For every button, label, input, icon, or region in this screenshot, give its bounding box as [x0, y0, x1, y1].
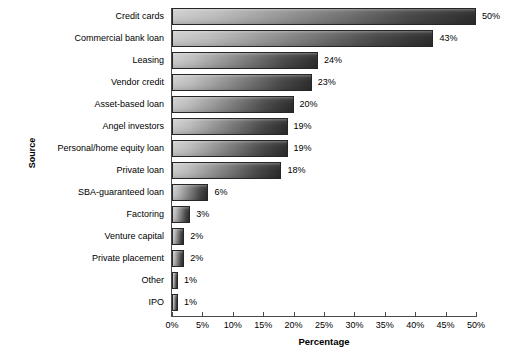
category-label: SBA-guaranteed loan: [0, 184, 164, 201]
bar-value-label: 50%: [482, 8, 500, 25]
bar-row: Credit cards50%: [172, 8, 476, 30]
bar-row: Venture capital2%: [172, 228, 476, 250]
x-axis-tick: [263, 312, 264, 317]
bar-row: Commercial bank loan43%: [172, 30, 476, 52]
bar: [172, 74, 312, 91]
category-label: IPO: [0, 294, 164, 311]
bar-value-label: 1%: [184, 272, 197, 289]
bar: [172, 140, 288, 157]
x-axis-tick: [324, 312, 325, 317]
bar-row: Other1%: [172, 272, 476, 294]
category-label: Other: [0, 272, 164, 289]
x-axis-tick-label: 50%: [456, 320, 496, 330]
category-label: Angel investors: [0, 118, 164, 135]
bar: [172, 272, 178, 289]
category-label: Venture capital: [0, 228, 164, 245]
bar-value-label: 2%: [190, 228, 203, 245]
bar: [172, 30, 433, 47]
bar: [172, 8, 476, 25]
bar-value-label: 2%: [190, 250, 203, 267]
category-label: Factoring: [0, 206, 164, 223]
bar: [172, 250, 184, 267]
bar-row: Private loan18%: [172, 162, 476, 184]
bar-value-label: 43%: [439, 30, 457, 47]
bar-row: Angel investors19%: [172, 118, 476, 140]
bar-value-label: 20%: [300, 96, 318, 113]
bar-value-label: 19%: [294, 118, 312, 135]
x-axis-tick: [476, 312, 477, 317]
plot-area: Credit cards50%Commercial bank loan43%Le…: [172, 8, 476, 314]
category-label: Asset-based loan: [0, 96, 164, 113]
category-label: Leasing: [0, 52, 164, 69]
bar-row: Factoring3%: [172, 206, 476, 228]
category-label: Private placement: [0, 250, 164, 267]
bar-row: Vendor credit23%: [172, 74, 476, 96]
category-label: Credit cards: [0, 8, 164, 25]
category-label: Vendor credit: [0, 74, 164, 91]
bar-row: Private placement2%: [172, 250, 476, 272]
x-axis-title: Percentage: [172, 336, 476, 347]
bar-value-label: 1%: [184, 294, 197, 311]
bar: [172, 162, 281, 179]
bar-row: Personal/home equity loan19%: [172, 140, 476, 162]
x-axis-tick: [385, 312, 386, 317]
x-axis-tick: [294, 312, 295, 317]
bar-value-label: 19%: [294, 140, 312, 157]
bar: [172, 184, 208, 201]
bar-value-label: 24%: [324, 52, 342, 69]
bar: [172, 206, 190, 223]
bar: [172, 96, 294, 113]
x-axis-tick: [172, 312, 173, 317]
x-axis-tick: [202, 312, 203, 317]
x-axis-tick: [415, 312, 416, 317]
category-label: Commercial bank loan: [0, 30, 164, 47]
x-axis-tick: [233, 312, 234, 317]
bar: [172, 228, 184, 245]
bar-row: Asset-based loan20%: [172, 96, 476, 118]
bar: [172, 118, 288, 135]
bar: [172, 52, 318, 69]
x-axis-tick: [354, 312, 355, 317]
bar-value-label: 3%: [196, 206, 209, 223]
bar-value-label: 6%: [214, 184, 227, 201]
bar-row: SBA-guaranteed loan6%: [172, 184, 476, 206]
x-axis-tick: [446, 312, 447, 317]
category-label: Personal/home equity loan: [0, 140, 164, 157]
bar-row: Leasing24%: [172, 52, 476, 74]
bar: [172, 294, 178, 311]
bar-chart: Source Credit cards50%Commercial bank lo…: [0, 0, 522, 359]
bar-value-label: 23%: [318, 74, 336, 91]
bar-value-label: 18%: [287, 162, 305, 179]
category-label: Private loan: [0, 162, 164, 179]
